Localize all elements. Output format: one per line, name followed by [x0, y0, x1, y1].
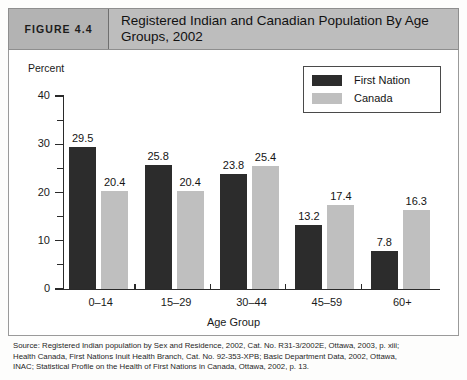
- chart-legend: First Nation Canada: [303, 66, 441, 113]
- figure-number-cell: FIGURE 4.4: [9, 9, 109, 49]
- legend-item-canada: Canada: [312, 90, 433, 106]
- x-axis-title: Age Group: [0, 316, 467, 328]
- legend-label-first-nation: First Nation: [354, 74, 410, 86]
- figure-number-label: FIGURE 4.4: [24, 23, 92, 35]
- legend-swatch-canada: [312, 93, 342, 104]
- source-line-3: INAC; Statistical Profile on the Health …: [13, 362, 459, 373]
- y-axis-title: Percent: [28, 62, 64, 74]
- figure-title: Registered Indian and Canadian Populatio…: [121, 13, 448, 46]
- figure-container: FIGURE 4.4 Registered Indian and Canadia…: [0, 0, 467, 380]
- legend-item-first-nation: First Nation: [312, 72, 433, 88]
- legend-swatch-first-nation: [312, 75, 342, 86]
- figure-title-cell: Registered Indian and Canadian Populatio…: [109, 9, 458, 49]
- figure-header: FIGURE 4.4 Registered Indian and Canadia…: [8, 8, 459, 50]
- legend-label-canada: Canada: [354, 92, 393, 104]
- source-note: Source: Registered Indian population by …: [13, 341, 459, 373]
- source-line-2: Health Canada, First Nations Inuit Healt…: [13, 352, 459, 363]
- source-line-1: Source: Registered Indian population by …: [13, 341, 459, 352]
